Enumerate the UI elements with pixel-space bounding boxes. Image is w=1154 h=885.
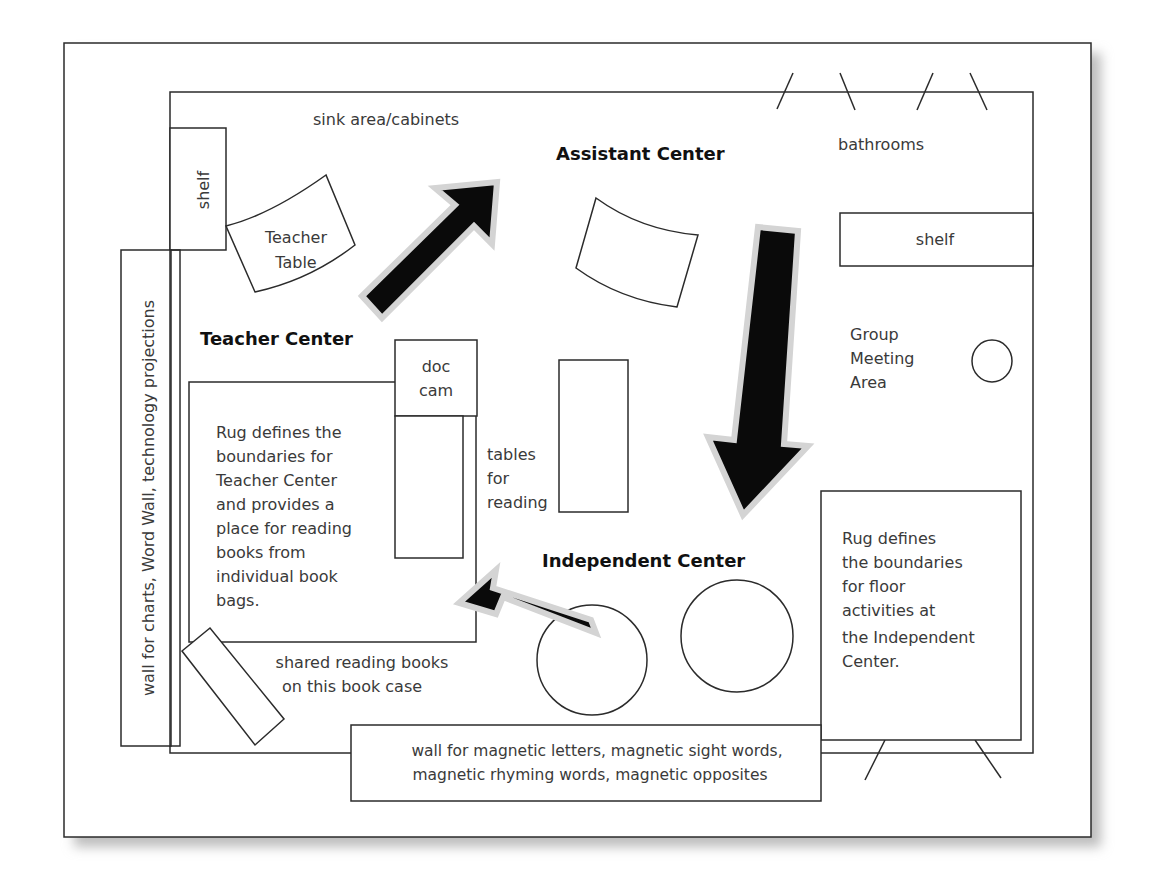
independent-rug-line-5: the Independent [842,628,975,647]
assistant-center-heading: Assistant Center [556,143,725,164]
independent-center-heading: Independent Center [542,550,745,571]
left-shelf-label: shelf [194,170,213,209]
teacher-rug-line-2: boundaries for [216,447,333,466]
teacher-rug-line-7: individual book [216,567,338,586]
bookcase-label-2: on this book case [282,677,422,696]
round-table-2 [681,580,793,692]
right-shelf: shelf [840,213,1033,266]
doc-cam-label-1: doc [422,357,451,376]
teacher-rug-line-1: Rug defines the [216,423,342,442]
doc-cam-label-2: cam [419,381,453,400]
teacher-center-heading: Teacher Center [200,328,353,349]
bookcase-label-1: shared reading books [276,653,449,672]
left-shelf: shelf [170,128,226,250]
reading-tables-label-2: for [487,469,509,488]
magnetic-wall-line-1: wall for magnetic letters, magnetic sigh… [411,742,782,760]
teacher-rug-line-8: bags. [216,591,260,610]
reading-tables-label-3: reading [487,493,548,512]
bathrooms-label: bathrooms [838,135,924,154]
right-shelf-label: shelf [916,230,955,249]
group-label-2: Meeting [850,349,915,368]
group-label-3: Area [850,373,887,392]
teacher-rug-line-5: place for reading [216,519,352,538]
teacher-table-label-2: Table [274,253,316,272]
sink-area-label: sink area/cabinets [313,110,459,129]
teacher-rug-line-6: books from [216,543,306,562]
chart-wall-label: wall for charts, Word Wall, technology p… [139,300,158,696]
chart-wall: wall for charts, Word Wall, technology p… [121,250,180,746]
independent-rug-line-4: activities at [842,601,935,620]
teacher-rug-line-4: and provides a [216,495,335,514]
group-label-1: Group [850,325,899,344]
independent-rug-line-3: for floor [842,577,906,596]
independent-rug: Rug defines the boundaries for floor act… [821,491,1021,740]
teacher-table-label-1: Teacher [264,228,327,247]
magnetic-wall: wall for magnetic letters, magnetic sigh… [351,725,821,801]
independent-rug-line-2: the boundaries [842,553,963,572]
independent-rug-line-6: Center. [842,652,899,671]
magnetic-wall-line-2: magnetic rhyming words, magnetic opposit… [412,766,767,784]
independent-rug-line-1: Rug defines [842,529,936,548]
classroom-floor-plan: shelf wall for charts, Word Wall, techno… [0,0,1154,885]
reading-tables-label-1: tables [487,445,536,464]
teacher-rug-line-3: Teacher Center [215,471,337,490]
